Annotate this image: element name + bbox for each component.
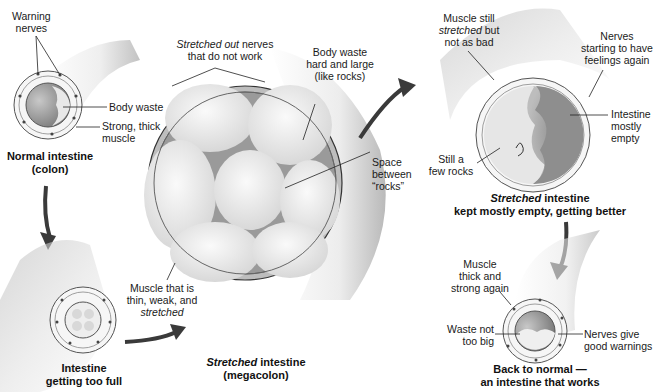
muscle-still-stretched-label: Muscle still stretched but not as bad <box>432 12 506 48</box>
italic-text: Stretched <box>206 356 257 368</box>
label-line: (like rocks) <box>300 70 380 82</box>
italic-text: stretched <box>439 24 482 36</box>
label-line: not as bad <box>432 36 506 48</box>
label-text: nerves <box>239 38 273 50</box>
space-between-rocks-label: Space between “rocks” <box>372 156 412 192</box>
caption-line: Stretched intestine <box>196 356 316 369</box>
label-line: Still a <box>426 153 476 165</box>
label-line: few rocks <box>426 165 476 177</box>
muscle-strong-again-label: Muscle thick and strong again <box>448 258 512 294</box>
label-line: Body waste <box>300 46 380 58</box>
caption-normal-intestine: Normal intestine (colon) <box>0 150 100 176</box>
label-line: nerves <box>12 22 51 34</box>
label-line: mostly <box>611 120 651 132</box>
nerves-recovering-label: Nerves starting to have feelings again <box>574 30 660 66</box>
caption-line: an intestine that works <box>475 376 605 389</box>
label-line: stretched but <box>432 24 506 36</box>
caption-text: intestine <box>541 192 589 204</box>
label-line: hard and large <box>300 58 380 70</box>
label-text: but <box>482 24 500 36</box>
nerves-good-warnings-label: Nerves give good warnings <box>584 328 652 352</box>
label-line: thick and <box>448 270 512 282</box>
label-line: Nerves <box>574 30 660 42</box>
arrow-up-right <box>360 87 405 138</box>
label-line: Space <box>372 156 412 168</box>
label-line: Muscle <box>448 258 512 270</box>
warning-nerves-label: Warning nerves <box>12 10 51 34</box>
italic-text: Stretched out <box>177 38 239 50</box>
label-line: between <box>372 168 412 180</box>
label-line: good warnings <box>584 340 652 352</box>
italic-text: Stretched <box>490 192 541 204</box>
caption-line: (megacolon) <box>196 369 316 382</box>
label-line: Waste not <box>442 323 494 335</box>
strong-muscle-label: Strong, thick muscle <box>102 120 160 144</box>
caption-text: intestine <box>257 356 305 368</box>
label-line: that do not work <box>170 50 280 62</box>
caption-back-to-normal: Back to normal — an intestine that works <box>475 363 605 389</box>
waste-not-too-big-label: Waste not too big <box>442 323 494 347</box>
label-line: strong again <box>448 282 512 294</box>
label-line: Intestine <box>611 108 651 120</box>
label-line: Strong, thick <box>102 120 160 132</box>
label-line: too big <box>442 335 494 347</box>
label-line: Muscle that is <box>120 282 204 294</box>
label-line: stretched <box>120 306 204 318</box>
label-line: Muscle still <box>432 12 506 24</box>
caption-line: Normal intestine <box>0 150 100 163</box>
label-line: “rocks” <box>372 180 412 192</box>
label-line: empty <box>611 132 651 144</box>
caption-line: Stretched intestine <box>440 192 640 205</box>
label-line: muscle <box>102 132 160 144</box>
label-line: Stretched out nerves <box>170 38 280 50</box>
caption-getting-too-full: Intestine getting too full <box>34 362 134 388</box>
few-rocks-label: Still a few rocks <box>426 153 476 177</box>
thin-muscle-label: Muscle that is thin, weak, and stretched <box>120 282 204 318</box>
caption-line: (colon) <box>0 163 100 176</box>
label-line: feelings again <box>574 54 660 66</box>
intestine-mostly-empty-label: Intestine mostly empty <box>611 108 651 144</box>
label-line: Warning <box>12 10 51 22</box>
label-line: Nerves give <box>584 328 652 340</box>
label-line: starting to have <box>574 42 660 54</box>
caption-line: kept mostly empty, getting better <box>440 205 640 218</box>
arrow-right-1 <box>125 332 176 342</box>
hard-waste-label: Body waste hard and large (like rocks) <box>300 46 380 82</box>
megacolon-illustration <box>144 48 386 300</box>
stretched-nerves-label: Stretched out nerves that do not work <box>170 38 280 62</box>
caption-getting-better: Stretched intestine kept mostly empty, g… <box>440 192 640 218</box>
caption-megacolon: Stretched intestine (megacolon) <box>196 356 316 382</box>
label-line: thin, weak, and <box>120 294 204 306</box>
arrow-down-1 <box>45 186 50 238</box>
caption-line: getting too full <box>34 375 134 388</box>
caption-line: Intestine <box>34 362 134 375</box>
caption-line: Back to normal — <box>475 363 605 376</box>
body-waste-label: Body waste <box>109 101 163 113</box>
